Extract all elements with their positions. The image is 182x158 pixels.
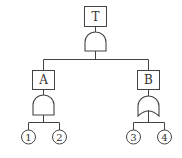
basic-event-3-label: 3 [130, 132, 136, 143]
basic-event-2-label: 2 [56, 132, 62, 143]
top-event-label: T [91, 10, 99, 24]
fault-tree-diagram: T A B 1 2 3 4 [0, 0, 182, 158]
basic-event-1-label: 1 [25, 132, 31, 143]
event-b-label: B [144, 73, 153, 87]
and-gate-icon [85, 32, 106, 51]
basic-event-4-label: 4 [161, 132, 167, 143]
event-a-label: A [38, 73, 48, 87]
and-gate-icon [33, 95, 54, 115]
